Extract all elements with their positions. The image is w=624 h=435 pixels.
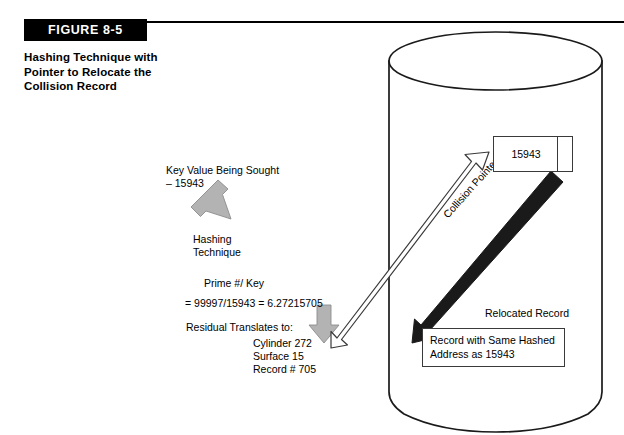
annotation-key-value: Key Value Being Sought – 15943 [166, 164, 279, 190]
annotation-equation: = 99997/15943 = 6.27215705 [185, 297, 323, 310]
annotation-hashing-technique: Hashing Technique [193, 233, 241, 259]
figure-caption: Hashing Technique with Pointer to Reloca… [24, 50, 159, 94]
annotation-residual-detail: Cylinder 272 Surface 15 Record # 705 [253, 337, 316, 376]
annotation-prime-over-key: Prime #/ Key [204, 277, 264, 290]
hashed-record-box: 15943 [493, 136, 573, 172]
label-relocated-record: Relocated Record [485, 307, 569, 319]
record-divider [557, 137, 558, 171]
relocated-record-box: Record with Same Hashed Address as 15943 [422, 328, 565, 367]
hashed-record-value: 15943 [494, 137, 558, 171]
header-rule [147, 21, 624, 23]
figure-number-badge: FIGURE 8-5 [24, 19, 147, 41]
annotation-residual-translates: Residual Translates to: [186, 321, 293, 334]
figure-canvas: FIGURE 8-5 Hashing Technique with Pointe… [0, 0, 624, 435]
